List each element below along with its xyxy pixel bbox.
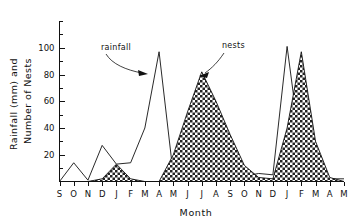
y-tick-label: 40 (44, 123, 55, 133)
x-tick-label: M (340, 189, 347, 199)
x-tick-label: S (227, 189, 232, 199)
x-tick-label: N (85, 189, 91, 199)
x-tick-label: O (70, 189, 77, 199)
x-tick-label: J (185, 189, 189, 199)
nests-annotation-label: nests (222, 41, 245, 50)
x-axis-title: Month (180, 207, 213, 218)
x-tick-label: A (327, 189, 333, 199)
y-tick-label: 80 (44, 70, 55, 80)
rainfall-nests-chart: 20406080100 SONDJFMAMJJASONDJFMAM Rainfa… (0, 0, 354, 224)
y-tick-label: 20 (44, 150, 55, 160)
x-tick-label: M (141, 189, 148, 199)
x-tick-label: J (285, 189, 289, 199)
y-tick-label: 100 (38, 43, 54, 53)
x-tick-label: S (57, 189, 62, 199)
x-tick-label: A (213, 189, 219, 199)
x-tick-label: F (299, 189, 304, 199)
x-tick-label: F (128, 189, 133, 199)
x-tick-label: O (241, 189, 248, 199)
x-tick-label: A (156, 189, 162, 199)
x-tick-label: M (170, 189, 177, 199)
x-tick-label: M (312, 189, 319, 199)
chart-figure: 20406080100 SONDJFMAMJJASONDJFMAM Rainfa… (0, 0, 354, 224)
y-axis-title-line2: Number of Nests (22, 58, 33, 144)
x-tick-label: N (255, 189, 261, 199)
x-tick-label: D (270, 189, 277, 199)
rainfall-annotation-label: rainfall (101, 43, 131, 52)
y-tick-label: 60 (44, 96, 55, 106)
x-tick-label: D (99, 189, 106, 199)
x-tick-label: J (199, 189, 203, 199)
y-axis-title-line1: Rainfall (mm) and (8, 58, 19, 150)
x-tick-label: J (114, 189, 118, 199)
